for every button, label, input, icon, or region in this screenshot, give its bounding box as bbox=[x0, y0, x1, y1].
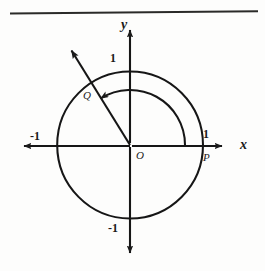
origin-label: O bbox=[136, 150, 144, 161]
point-p-label: P bbox=[203, 152, 210, 163]
x-tick-negative-one: -1 bbox=[30, 130, 40, 142]
y-tick-negative-one: -1 bbox=[108, 222, 118, 234]
page-rule bbox=[10, 11, 258, 13]
figure-container: y x O 1 -1 -1 1 P Q bbox=[0, 0, 265, 271]
x-tick-positive-one: 1 bbox=[203, 128, 209, 140]
point-q-label: Q bbox=[83, 90, 91, 101]
y-tick-positive-one: 1 bbox=[110, 52, 116, 64]
x-axis-label: x bbox=[240, 138, 247, 152]
y-axis-label: y bbox=[121, 18, 127, 32]
